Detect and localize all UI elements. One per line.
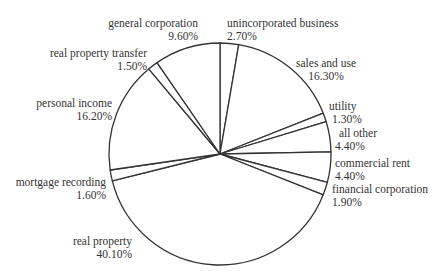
- label-commercial-rent: commercial rent 4.40%: [335, 157, 410, 183]
- label-all-other: all other 4.40%: [335, 127, 377, 153]
- label-real-property-transfer: real property transfer 1.50%: [50, 47, 147, 73]
- label-unincorporated-business: unincorporated business 2.70%: [227, 17, 338, 43]
- label-real-property: real property 40.10%: [73, 235, 132, 261]
- label-mortgage-recording: mortgage recording 1.60%: [16, 176, 106, 202]
- label-sales-and-use: sales and use 16.30%: [296, 57, 356, 83]
- label-personal-income: personal income 16.20%: [36, 97, 112, 123]
- label-general-corporation: general corporation 9.60%: [108, 17, 198, 43]
- label-utility: utility 1.30%: [325, 100, 362, 126]
- label-financial-corporation: financial corporation 1.90%: [332, 183, 428, 209]
